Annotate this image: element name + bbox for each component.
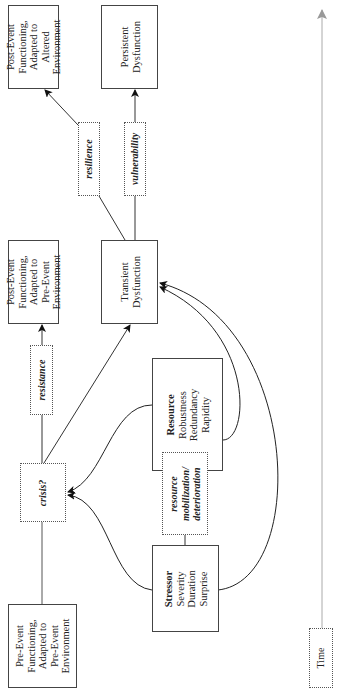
resilience-process: resilience: [78, 122, 100, 196]
resource-mobilization-process: resource mobilization/ deterioration: [162, 452, 208, 535]
persistent-dysfunction-box: Persistent Dysfunction: [101, 5, 158, 89]
post-event-pre-event-box: Post-Event Functioning, Adapted to Pre-E…: [8, 240, 59, 324]
post-event-altered-box: Post-Event Functioning, Adapted to Alter…: [8, 5, 59, 89]
resistance-process: resistance: [30, 345, 53, 415]
pre-event-box: Pre-Event Functioning, Adapted to Pre-Ev…: [8, 604, 77, 688]
time-axis-label: Time: [309, 628, 333, 688]
transient-dysfunction-box: Transient Dysfunction: [101, 240, 158, 324]
vulnerability-process: vulnerability: [124, 122, 146, 196]
crisis-process: crisis?: [20, 463, 66, 522]
stressor-box: Stressor Severity Duration Surprise: [152, 545, 219, 632]
